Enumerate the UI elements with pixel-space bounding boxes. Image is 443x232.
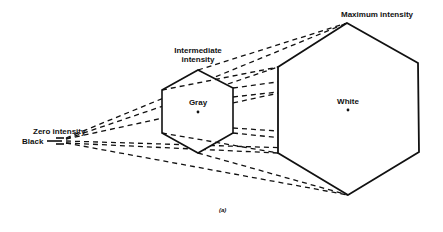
hexcone-diagram: Zero intensity Black Intermediate intens… — [0, 0, 443, 232]
intermediate-line1: Intermediate — [166, 46, 230, 55]
white-label: White — [328, 97, 368, 106]
gray-label: Gray — [178, 98, 218, 107]
intermediate-intensity-label: Intermediate intensity — [166, 46, 230, 64]
figure-caption: (a) — [219, 206, 226, 215]
maximum-intensity-label: Maximum intensity — [341, 10, 413, 19]
zero-intensity-label: Zero intensity — [33, 127, 85, 136]
white-center-dot — [347, 109, 350, 112]
diagram-canvas — [0, 0, 443, 232]
black-arrow-icon — [47, 138, 64, 144]
intermediate-line2: intensity — [166, 55, 230, 64]
black-label: Black — [22, 137, 43, 146]
gray-center-dot — [197, 111, 200, 114]
